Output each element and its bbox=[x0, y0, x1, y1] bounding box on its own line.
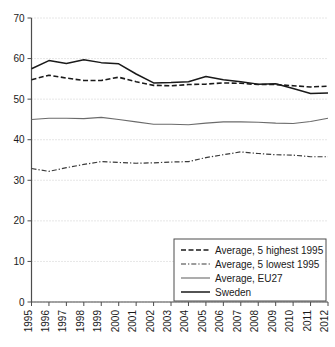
legend-label-0: Average, 5 highest 1995 bbox=[215, 245, 324, 256]
y-tick-label: 70 bbox=[13, 13, 25, 24]
x-tick-label: 2006 bbox=[214, 310, 225, 333]
y-tick-label: 20 bbox=[13, 215, 25, 226]
x-tick-label: 1997 bbox=[57, 310, 68, 333]
chart-canvas: 010203040506070 199519961997199819992000… bbox=[0, 0, 335, 347]
chart-legend: Average, 5 highest 1995Average, 5 lowest… bbox=[174, 239, 326, 301]
x-tick-label: 2001 bbox=[127, 310, 138, 333]
x-tick-label: 1995 bbox=[23, 310, 34, 333]
y-tick-label: 10 bbox=[13, 256, 25, 267]
x-tick-label: 2003 bbox=[162, 310, 173, 333]
x-tick-label: 2010 bbox=[284, 310, 295, 333]
series-line-1 bbox=[32, 152, 329, 171]
y-tick-label: 40 bbox=[13, 134, 25, 145]
y-tick-label: 0 bbox=[19, 297, 25, 308]
x-tick-label: 2009 bbox=[267, 310, 278, 333]
x-tick-label: 1999 bbox=[92, 310, 103, 333]
x-tick-label: 1996 bbox=[40, 310, 51, 333]
series-line-3 bbox=[32, 60, 329, 94]
x-tick-label: 2007 bbox=[232, 310, 243, 333]
x-axis-ticks: 1995199619971998199920002001200220032004… bbox=[23, 302, 331, 332]
data-series bbox=[32, 60, 329, 172]
x-tick-label: 2000 bbox=[110, 310, 121, 333]
x-tick-label: 2011 bbox=[302, 310, 313, 332]
line-chart: 010203040506070 199519961997199819992000… bbox=[0, 0, 335, 347]
legend-label-2: Average, EU27 bbox=[215, 273, 283, 284]
x-tick-label: 2005 bbox=[197, 310, 208, 333]
y-axis-ticks: 010203040506070 bbox=[13, 13, 31, 308]
legend-label-3: Sweden bbox=[215, 287, 251, 298]
series-line-2 bbox=[32, 117, 329, 124]
x-tick-label: 1998 bbox=[75, 310, 86, 333]
x-tick-label: 2004 bbox=[179, 310, 190, 333]
y-tick-label: 60 bbox=[13, 53, 25, 64]
legend-label-1: Average, 5 lowest 1995 bbox=[215, 259, 320, 270]
x-tick-label: 2008 bbox=[249, 310, 260, 333]
y-tick-label: 30 bbox=[13, 175, 25, 186]
x-tick-label: 2012 bbox=[319, 310, 330, 333]
y-tick-label: 50 bbox=[13, 94, 25, 105]
x-tick-label: 2002 bbox=[145, 310, 156, 333]
